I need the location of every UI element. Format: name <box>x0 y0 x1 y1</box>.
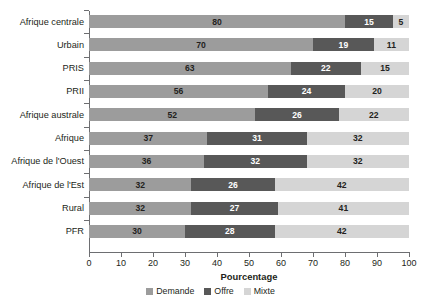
bar-value-label: 31 <box>252 134 262 143</box>
bar-segment-demande: 32 <box>89 178 191 191</box>
bar-value-label: 32 <box>251 157 261 166</box>
bar-value-label: 32 <box>135 180 145 189</box>
bar-segment-offre: 31 <box>207 132 306 145</box>
chart-legend: DemandeOffreMixte <box>0 287 421 296</box>
bar-value-label: 15 <box>364 17 374 26</box>
bar-segment-demande: 70 <box>89 38 313 51</box>
value-tick <box>409 253 410 257</box>
value-tick <box>249 253 250 257</box>
bar-value-label: 52 <box>167 110 177 119</box>
bar-value-label: 32 <box>135 204 145 213</box>
value-tick <box>377 253 378 257</box>
category-label: PFR <box>66 226 84 236</box>
bar-value-label: 36 <box>142 157 152 166</box>
category-tick <box>84 10 89 11</box>
bar-value-label: 5 <box>399 17 404 26</box>
bar-value-label: 26 <box>228 180 238 189</box>
bar-segment-mixte: 42 <box>275 178 409 191</box>
bar-segment-offre: 15 <box>345 15 393 28</box>
bar-value-label: 22 <box>369 110 379 119</box>
legend-item[interactable]: Mixte <box>244 287 275 296</box>
value-tick <box>217 253 218 257</box>
bar-value-label: 32 <box>353 157 363 166</box>
bar-segment-demande: 63 <box>89 62 291 75</box>
bar-segment-offre: 27 <box>191 202 277 215</box>
bar-value-label: 24 <box>302 87 312 96</box>
bar-segment-demande: 80 <box>89 15 345 28</box>
category-tick <box>84 103 89 104</box>
category-label: Afrique de l'Est <box>22 180 84 190</box>
stacked-bar-chart: Afrique centraleUrbainPRISPRIIAfrique au… <box>0 0 421 306</box>
bar-segment-offre: 19 <box>313 38 374 51</box>
value-tick-label: 100 <box>389 258 421 268</box>
bar-segment-offre: 26 <box>191 178 274 191</box>
legend-swatch-icon <box>146 288 153 295</box>
value-tick <box>345 253 346 257</box>
bar-segment-mixte: 11 <box>374 38 409 51</box>
bar-segment-offre: 24 <box>268 85 345 98</box>
bar-value-label: 22 <box>321 64 331 73</box>
category-label: Afrique de l'Ouest <box>11 156 84 166</box>
bar-value-label: 42 <box>337 227 347 236</box>
category-label: PRII <box>66 86 84 96</box>
category-tick <box>84 57 89 58</box>
category-label: Rural <box>62 203 84 213</box>
bar-value-label: 42 <box>337 180 347 189</box>
category-label: Afrique <box>55 133 84 143</box>
category-label: Afrique australe <box>20 110 84 120</box>
legend-label: Demande <box>156 287 194 296</box>
bar-segment-demande: 37 <box>89 132 207 145</box>
bar-segment-mixte: 5 <box>393 15 409 28</box>
legend-swatch-icon <box>204 288 211 295</box>
bar-segment-mixte: 15 <box>361 62 409 75</box>
bar-segment-offre: 22 <box>291 62 361 75</box>
bar-value-label: 63 <box>185 64 195 73</box>
category-label: Urbain <box>57 40 84 50</box>
bar-segment-mixte: 20 <box>345 85 409 98</box>
value-tick <box>185 253 186 257</box>
bar-segment-demande: 32 <box>89 202 191 215</box>
category-tick <box>84 220 89 221</box>
value-tick <box>153 253 154 257</box>
category-tick <box>84 127 89 128</box>
category-tick <box>84 150 89 151</box>
bar-value-label: 41 <box>339 204 349 213</box>
bar-segment-demande: 56 <box>89 85 268 98</box>
category-tick <box>84 197 89 198</box>
bar-segment-mixte: 32 <box>307 132 409 145</box>
bar-segment-mixte: 42 <box>275 225 409 238</box>
bar-value-label: 28 <box>225 227 235 236</box>
legend-label: Mixte <box>254 287 275 296</box>
bar-segment-mixte: 41 <box>278 202 409 215</box>
legend-item[interactable]: Demande <box>146 287 194 296</box>
value-tick <box>281 253 282 257</box>
bar-segment-demande: 52 <box>89 108 255 121</box>
bar-value-label: 11 <box>387 40 396 49</box>
bar-segment-demande: 30 <box>89 225 185 238</box>
bar-value-label: 30 <box>132 227 142 236</box>
category-label: Afrique centrale <box>20 17 84 27</box>
bar-value-label: 80 <box>212 17 222 26</box>
x-axis-title: Pourcentage <box>89 271 409 282</box>
bar-segment-offre: 26 <box>255 108 338 121</box>
bar-segment-mixte: 22 <box>339 108 409 121</box>
bar-value-label: 27 <box>230 204 240 213</box>
bar-value-label: 20 <box>372 87 382 96</box>
legend-item[interactable]: Offre <box>204 287 233 296</box>
category-tick <box>84 173 89 174</box>
bar-value-label: 32 <box>353 134 363 143</box>
bar-segment-demande: 36 <box>89 155 204 168</box>
cropped-title-artifact <box>0 0 421 8</box>
bar-value-label: 19 <box>339 40 349 49</box>
bar-value-label: 37 <box>143 134 153 143</box>
bar-value-label: 70 <box>196 40 206 49</box>
value-tick <box>121 253 122 257</box>
legend-swatch-icon <box>244 288 251 295</box>
bar-segment-offre: 32 <box>204 155 306 168</box>
category-tick <box>84 80 89 81</box>
bar-segment-mixte: 32 <box>307 155 409 168</box>
bar-value-label: 15 <box>380 64 390 73</box>
category-tick <box>84 33 89 34</box>
bar-value-label: 26 <box>292 110 302 119</box>
value-tick <box>89 253 90 257</box>
